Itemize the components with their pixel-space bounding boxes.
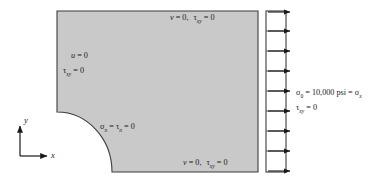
applied-load-magnitude-label: σ0 = 10,000 psi = σx [296, 88, 362, 99]
x-axis-label: x [51, 150, 55, 160]
left-boundary-condition-u-label: u = 0 [71, 51, 88, 60]
load-tau-eq: = 0 [304, 103, 317, 112]
left-bc-u-eq: = 0 [75, 51, 88, 60]
load-value: 10,000 [312, 88, 335, 97]
load-sigma-x-sub: x [359, 93, 361, 99]
load-unit: psi = [334, 88, 354, 97]
notch-bc-eq1: = [107, 122, 116, 131]
body-shape [57, 11, 258, 172]
top-boundary-condition-label: v = 0,τxy = 0 [170, 13, 215, 24]
notch-boundary-condition-label: σn = τn = 0 [100, 122, 135, 133]
applied-load-shear-label: τxy = 0 [296, 103, 317, 114]
notch-bc-eq2: = 0 [122, 122, 135, 131]
top-bc-eq2: = 0 [202, 13, 215, 22]
load-eq: = [303, 88, 312, 97]
figure-canvas: v = 0,τxy = 0 u = 0 τxy = 0 σn = τn = 0 … [0, 0, 388, 189]
top-bc-eq1: = 0, [174, 13, 189, 22]
coordinate-axes [20, 126, 47, 156]
left-bc-tau-eq: = 0 [71, 66, 84, 75]
bottom-bc-eq2: = 0 [215, 158, 228, 167]
bottom-boundary-condition-label: v = 0,τxy = 0 [183, 158, 228, 169]
y-axis-label: y [24, 115, 28, 125]
bottom-bc-eq1: = 0, [187, 158, 202, 167]
left-boundary-condition-tau-label: τxy = 0 [63, 66, 84, 77]
